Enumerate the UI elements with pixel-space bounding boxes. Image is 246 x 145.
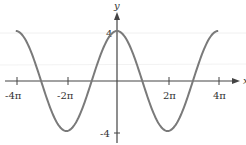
x-tick-label-4pi: 4π bbox=[213, 90, 226, 101]
y-axis-arrow-icon bbox=[114, 12, 120, 20]
x-tick-label-m2pi: -2π bbox=[57, 90, 74, 101]
guide-line bbox=[0, 64, 246, 65]
y-axis-label: y bbox=[113, 0, 120, 11]
x-tick-label-m4pi: -4π bbox=[5, 90, 22, 101]
y-tick-label-m4: -4 bbox=[100, 128, 110, 139]
x-axis-arrow-icon bbox=[232, 78, 240, 84]
x-tick-label-2pi: 2π bbox=[163, 90, 176, 101]
x-axis-label: x bbox=[243, 75, 246, 86]
cosine-graph: x y -4π -2π 2π 4π 4 -4 bbox=[0, 0, 246, 145]
